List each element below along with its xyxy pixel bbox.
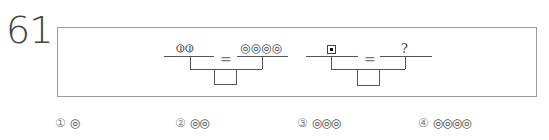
eq2-left-underline xyxy=(306,56,358,57)
eq2-answer-box xyxy=(357,69,380,86)
question-number: 61 xyxy=(6,8,52,52)
option-number: ② xyxy=(175,116,186,130)
eq2-bracket-left xyxy=(331,56,332,69)
square-dot-icon xyxy=(327,45,336,54)
option-value: ◎◎◎ xyxy=(312,116,340,130)
equals-sign: = xyxy=(364,52,376,66)
option-value: ◎◎◎◎ xyxy=(433,116,471,130)
eq1-left-underline xyxy=(164,56,214,57)
option-value: ◎◎ xyxy=(190,116,209,130)
eq1-bracket-right xyxy=(262,56,263,69)
option-number: ③ xyxy=(297,116,308,130)
option-3[interactable]: ③◎◎◎ xyxy=(297,116,340,130)
concentric-circle-symbols: ◎◎◎◎ xyxy=(240,42,282,54)
circle-bar-symbols: ⦶⦶ xyxy=(176,42,194,54)
option-value: ◎ xyxy=(70,116,79,130)
option-4[interactable]: ④◎◎◎◎ xyxy=(418,116,471,130)
option-2[interactable]: ②◎◎ xyxy=(175,116,209,130)
eq2-right-underline xyxy=(380,56,432,57)
eq2-bracket-right xyxy=(405,56,406,69)
question-frame xyxy=(57,27,537,97)
question-mark: ? xyxy=(401,42,408,55)
option-number: ① xyxy=(55,116,66,130)
option-number: ④ xyxy=(418,116,429,130)
eq1-answer-box xyxy=(214,69,237,85)
eq1-bracket-left xyxy=(190,56,191,69)
equals-sign: = xyxy=(220,52,232,66)
option-1[interactable]: ①◎ xyxy=(55,116,79,130)
